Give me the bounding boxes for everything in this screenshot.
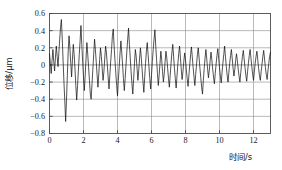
x-tick-label: 4 bbox=[115, 136, 119, 145]
y-tick-label: −0.6 bbox=[30, 112, 45, 121]
chart-frame bbox=[50, 14, 271, 134]
x-tick-label: 6 bbox=[149, 136, 153, 145]
x-tick-label: 10 bbox=[215, 136, 223, 145]
y-tick-label: −0.4 bbox=[30, 95, 45, 104]
x-tick-label: 12 bbox=[249, 136, 257, 145]
series-line-displacement bbox=[50, 20, 271, 122]
x-axis-tick-labels: 024681012 bbox=[47, 136, 257, 145]
chart-grid bbox=[50, 14, 271, 134]
chart-figure: 024681012 −0.8−0.6−0.4−0.200.20.40.6 时间/… bbox=[0, 0, 282, 170]
y-tick-label: 0 bbox=[41, 61, 45, 70]
displacement-time-line-chart: 024681012 −0.8−0.6−0.4−0.200.20.40.6 时间/… bbox=[0, 0, 282, 170]
x-axis-title: 时间/s bbox=[229, 152, 252, 162]
y-tick-label: 0.4 bbox=[35, 27, 45, 36]
y-axis-title: 位移/μm bbox=[4, 57, 14, 89]
y-tick-label: 0.6 bbox=[35, 9, 45, 18]
x-tick-label: 2 bbox=[81, 136, 85, 145]
x-tick-label: 0 bbox=[47, 136, 51, 145]
y-tick-label: −0.8 bbox=[30, 129, 45, 138]
data-series-displacement bbox=[50, 20, 271, 122]
x-tick-label: 8 bbox=[183, 136, 187, 145]
y-tick-label: 0.2 bbox=[35, 44, 45, 53]
y-axis-tick-labels: −0.8−0.6−0.4−0.200.20.40.6 bbox=[30, 9, 45, 138]
y-tick-label: −0.2 bbox=[30, 78, 45, 87]
